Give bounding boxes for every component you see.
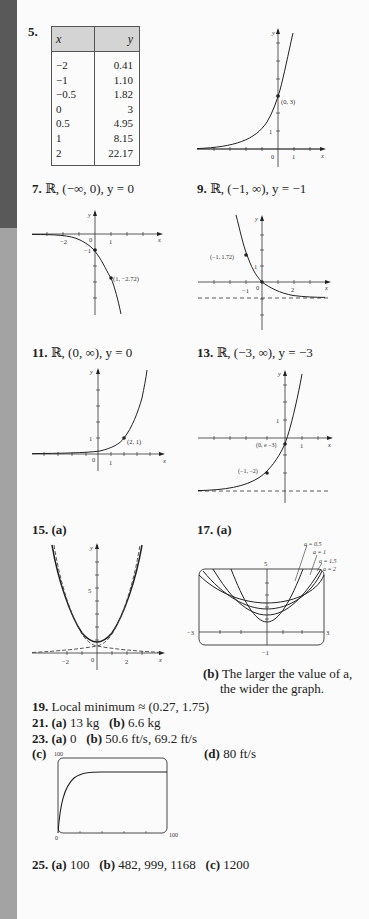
cell-x: 0: [52, 102, 95, 117]
exercise-number-21: 21.: [32, 715, 48, 730]
axis-label-y: y: [277, 370, 281, 377]
table-row: 222.17: [52, 146, 140, 166]
part-label: (a): [52, 715, 67, 730]
cell-y: 4.95: [95, 116, 140, 131]
table-row: −20.41: [52, 52, 140, 73]
part-label: (c): [206, 857, 220, 872]
tick-label: 1: [89, 435, 92, 442]
cell-y: 0.41: [95, 52, 140, 73]
axis-label-y: y: [87, 211, 91, 218]
answer-text: The larger the value of a,: [222, 666, 352, 681]
window-xmin: −3: [187, 629, 194, 636]
tick-label: 0: [89, 236, 92, 243]
axis-label-x: x: [327, 441, 331, 448]
axis-label-y: y: [89, 544, 93, 551]
axis-label-x: x: [157, 236, 161, 243]
table-row: 03: [52, 102, 140, 117]
window-xmax: 100: [169, 832, 178, 838]
answer-text: Local minimum ≈ (0.27, 1.75): [52, 699, 210, 714]
cell-x: −2: [52, 52, 95, 73]
answer-text: 50.6 ft/s, 69.2 ft/s: [105, 731, 197, 746]
answer-text: 482, 999, 1168: [118, 857, 196, 872]
tick-label: 1: [292, 153, 295, 160]
point-label: (−1, −2): [238, 468, 258, 475]
cell-y: 1.82: [95, 87, 140, 102]
tick-label: −2: [60, 238, 67, 245]
cell-x: 1: [52, 131, 95, 146]
part-label: (b): [109, 715, 125, 730]
graph-23c: 100 0 100: [40, 745, 190, 840]
table-row: 0.54.95: [52, 116, 140, 131]
point-label: (2, 1): [127, 438, 141, 446]
table-row: 18.15: [52, 131, 140, 146]
exercise-23d-answer: (d) 80 ft/s: [204, 746, 256, 762]
axis-label-x: x: [158, 656, 162, 663]
legend-label: a = 1: [313, 549, 326, 555]
tick-label: 0: [92, 456, 95, 463]
graph-7: (1, −2.72) −1 −2 0 1 x y: [0, 180, 185, 340]
tick-label: 0: [271, 153, 274, 160]
window-xmax: 3: [326, 629, 329, 636]
axis-label-x: x: [162, 457, 166, 464]
graph-5: (0, 3) 1 0 1 x y: [185, 0, 369, 180]
part-label: (b): [99, 857, 115, 872]
window-ymin: −1: [262, 649, 269, 656]
cell-y: 1.10: [95, 73, 140, 88]
part-label: (d): [204, 746, 220, 761]
legend-label: a = 1.5: [319, 558, 337, 564]
axis-label-x: x: [324, 284, 328, 291]
cell-x: −1: [52, 73, 95, 88]
part-label: (b): [203, 666, 219, 681]
graph-9: (−1, 1.72) 1 −1 0 2 x y: [185, 180, 369, 340]
table-header-y: y: [95, 27, 140, 52]
tick-label: 2: [125, 658, 128, 665]
point-label: (1, −2.72): [113, 275, 139, 283]
tick-label: 1: [109, 238, 112, 245]
window-ymax: 100: [54, 751, 63, 757]
graph-15: 5 −2 0 2 x y: [0, 505, 185, 685]
tick-label: 1: [109, 459, 112, 466]
axis-label-x: x: [320, 152, 324, 159]
graph-11: (2, 1) 1 0 1 x y: [0, 340, 185, 505]
exercise-number-23: 23.: [32, 731, 48, 746]
exercise-number-25: 25.: [32, 857, 48, 872]
point-label: (0, e −3): [256, 442, 277, 449]
graph-17: a = 0.5 a = 1 a = 1.5 a = 2 5 −1 −3 3: [185, 505, 369, 665]
cell-y: 8.15: [95, 131, 140, 146]
tick-label: 5: [88, 587, 91, 594]
cell-x: −0.5: [52, 87, 95, 102]
cell-x: 2: [52, 146, 95, 166]
tick-label: 1: [269, 128, 272, 135]
tick-label: −2: [62, 658, 69, 665]
window-ymax: 5: [264, 560, 267, 567]
answer-text: 0: [70, 731, 77, 746]
answer-text: 13 kg: [70, 715, 99, 730]
tick-label: −1: [84, 247, 91, 254]
table-header-x: x: [52, 27, 95, 52]
table-row: −0.51.82: [52, 87, 140, 102]
answer-text: 1200: [223, 857, 249, 872]
axis-label-y: y: [271, 29, 275, 36]
exercise-21-answer: 21. (a) 13 kg (b) 6.6 kg: [32, 715, 161, 731]
exercise-17b: (b) The larger the value of a, the wider…: [203, 666, 352, 696]
answer-text: 100: [70, 857, 90, 872]
answer-text: 80 ft/s: [223, 746, 256, 761]
cell-x: 0.5: [52, 116, 95, 131]
part-label: (b): [86, 731, 102, 746]
point-label: (0, 3): [281, 98, 295, 106]
exercise-number-19: 19.: [32, 699, 48, 714]
axis-label-y: y: [89, 368, 93, 375]
point-label: (−1, 1.72): [210, 254, 234, 261]
tick-label: 2: [291, 286, 294, 293]
answer-text: the wider the graph.: [203, 681, 324, 696]
legend-label: a = 2: [323, 566, 336, 572]
answer-text: 6.6 kg: [128, 715, 161, 730]
legend-label: a = 0.5: [304, 541, 322, 547]
values-table: x y −20.41 −11.10 −0.51.82 03 0.54.95 18…: [51, 26, 140, 166]
tick-label: −1: [242, 287, 249, 294]
table-row: −11.10: [52, 73, 140, 88]
part-label: (a): [52, 731, 67, 746]
tick-label: 0: [91, 656, 94, 663]
tick-label: 1: [254, 263, 257, 270]
cell-y: 3: [95, 102, 140, 117]
